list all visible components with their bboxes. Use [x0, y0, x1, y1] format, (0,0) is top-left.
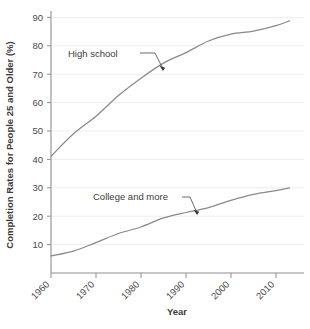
- y-axis-tick-label: 60: [32, 97, 43, 108]
- y-axis-tick-label: 10: [32, 239, 43, 250]
- y-axis-tick-label: 50: [32, 125, 43, 136]
- x-axis-title: Year: [167, 306, 187, 317]
- college-annotation-text: College and more: [93, 191, 168, 202]
- y-axis-tick-label: 80: [32, 40, 43, 51]
- x-axis-tick-labels: 196019701980199020002010: [29, 279, 277, 302]
- y-axis-title: Completion Rates for People 25 and Older…: [4, 41, 15, 248]
- series-line-college-and-more: [51, 188, 290, 256]
- high-school-annotation-arrow-icon: [160, 66, 166, 71]
- high-school-annotation-leader-line: [140, 53, 163, 69]
- x-axis-tick-label: 1990: [164, 279, 187, 302]
- x-axis-tick-label: 1970: [74, 279, 97, 302]
- y-axis-tick-label: 30: [32, 182, 43, 193]
- y-axis-tick-label: 20: [32, 211, 43, 222]
- x-axis-tick-label: 2000: [209, 279, 232, 302]
- chart-container: 196019701980199020002010 102030405060708…: [0, 0, 310, 329]
- y-axis-ticks: [47, 17, 51, 244]
- y-axis-tick-label: 70: [32, 69, 43, 80]
- high-school-annotation-text: High school: [68, 48, 118, 59]
- x-axis-tick-label: 1980: [119, 279, 142, 302]
- line-chart: 196019701980199020002010 102030405060708…: [0, 0, 310, 329]
- y-axis-tick-labels: 102030405060708090: [32, 12, 43, 250]
- x-axis-tick-label: 2010: [254, 279, 277, 302]
- series-line-high-school: [51, 21, 290, 156]
- y-axis-tick-label: 40: [32, 154, 43, 165]
- x-axis-ticks: [51, 273, 276, 278]
- y-axis-tick-label: 90: [32, 12, 43, 23]
- x-axis-tick-label: 1960: [29, 279, 52, 302]
